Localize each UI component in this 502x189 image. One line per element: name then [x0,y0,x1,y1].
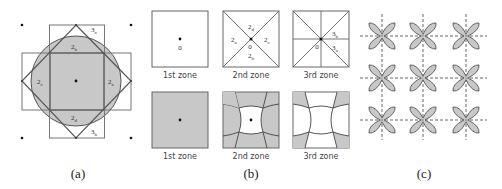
zone-label: 2nd zone [233,71,270,80]
zone-label: 1st zone [163,152,197,161]
zone-2-bottom: 2nd zone [223,92,279,161]
zone-label: 2nd zone [233,152,270,161]
svg-text:0: 0 [248,43,252,51]
svg-text:0: 0 [315,43,319,51]
panel-b: 0 1st zone 2d 2a 2c 2b 0 2nd zone 3b 3a [152,11,349,181]
svg-text:0: 0 [178,44,182,52]
caption-c: (c) [417,166,431,181]
zone-label: 3rd zone [304,152,339,161]
panel-a: 2b 2c 2a 2d 3a 3b (a) [21,24,133,181]
lattice-dot [130,137,133,140]
lattice-dot [21,24,24,27]
figure-canvas: 2b 2c 2a 2d 3a 3b (a) 0 1st zone 2d 2a 2… [0,0,502,189]
lattice-dot [130,24,133,27]
zone-label: 1st zone [163,71,197,80]
zone-1-bottom: 1st zone [152,92,208,161]
lattice-dot [75,24,77,26]
panel-c: (c) [360,14,487,181]
zone-label: 3rd zone [304,71,339,80]
caption-a: (a) [71,166,85,181]
label-3b: 3b [91,128,98,137]
zone-3-bottom: 3rd zone [293,92,349,161]
zone-2-top: 2d 2a 2c 2b 0 2nd zone [223,11,279,80]
lattice-dot [75,137,77,139]
zone-1-top: 0 1st zone [152,11,208,80]
caption-b: (b) [243,166,258,181]
lattice-dot [130,80,132,82]
lattice-dot [21,137,24,140]
zone-3-top: 3b 3a 0 3rd zone [293,11,349,80]
label-3a: 3a [91,26,98,35]
center-dot [75,80,78,83]
lattice-dot [21,80,23,82]
